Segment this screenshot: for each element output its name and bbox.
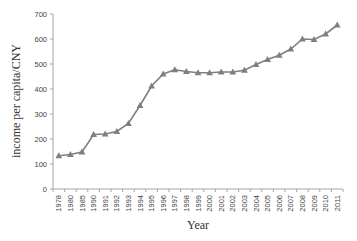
- x-tick-label: 2005: [263, 195, 272, 212]
- x-tick-label: 1990: [89, 195, 98, 212]
- series-line: [59, 25, 337, 156]
- data-series: [55, 22, 340, 159]
- x-tick-label: 1997: [170, 195, 179, 212]
- y-tick-label: 200: [34, 135, 47, 144]
- x-tick-label: 2009: [310, 195, 319, 212]
- x-tick-label: 2011: [333, 195, 342, 211]
- x-tick-label: 2001: [217, 195, 226, 212]
- y-tick-label: 600: [34, 35, 47, 44]
- x-tick-label: 2004: [252, 195, 261, 212]
- x-tick-label: 1980: [66, 195, 75, 212]
- x-tick-label: 1998: [182, 195, 191, 212]
- x-tick-label: 2008: [298, 195, 307, 212]
- triangle-marker-icon: [334, 22, 341, 28]
- y-tick-label: 500: [34, 60, 47, 69]
- x-tick-label: 2007: [286, 195, 295, 212]
- x-axis-title: Year: [187, 218, 209, 232]
- x-tick-label: 1992: [112, 195, 121, 212]
- y-tick-label: 700: [34, 10, 47, 19]
- x-tick-label: 1991: [101, 195, 110, 212]
- y-tick-label: 100: [34, 160, 47, 169]
- line-chart: 0100200300400500600700 19781980198519901…: [0, 0, 357, 241]
- x-axis-ticks: 1978198019851990199119921993199419951996…: [53, 189, 343, 212]
- x-tick-label: 1993: [124, 195, 133, 212]
- y-axis-ticks: 0100200300400500600700: [34, 10, 53, 194]
- y-tick-label: 400: [34, 85, 47, 94]
- x-tick-label: 1995: [147, 195, 156, 212]
- x-tick-label: 2010: [321, 195, 330, 212]
- x-tick-label: 1994: [136, 195, 145, 212]
- y-tick-label: 300: [34, 110, 47, 119]
- x-tick-label: 2002: [228, 195, 237, 212]
- x-tick-label: 2000: [205, 195, 214, 212]
- x-tick-label: 1996: [159, 195, 168, 212]
- x-tick-label: 2006: [275, 195, 284, 212]
- x-tick-label: 1978: [54, 195, 63, 212]
- y-tick-label: 0: [43, 185, 47, 194]
- x-tick-label: 2003: [240, 195, 249, 212]
- x-tick-label: 1999: [194, 195, 203, 212]
- x-tick-label: 1985: [78, 195, 87, 212]
- y-axis-title: income per capita/CNY: [9, 44, 23, 158]
